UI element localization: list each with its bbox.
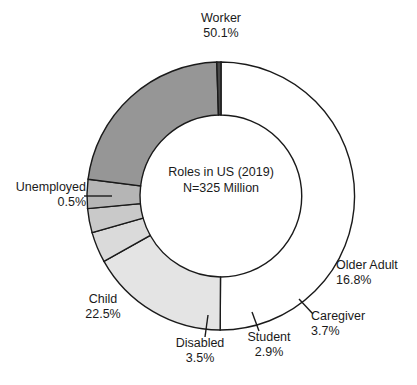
slice-label-student-value: 2.9% <box>238 345 300 360</box>
slice-label-student-category: Student <box>238 330 300 345</box>
slice-label-older-adult-value: 16.8% <box>336 273 416 288</box>
chart-center-label: Roles in US (2019) N=325 Million <box>146 164 296 197</box>
slice-label-worker: Worker 50.1% <box>181 11 261 41</box>
chart-title: Roles in US (2019) <box>146 164 296 180</box>
slice-label-disabled-value: 3.5% <box>166 351 234 366</box>
slice-label-caregiver: Caregiver 3.7% <box>311 309 397 339</box>
slice-label-worker-category: Worker <box>181 11 261 26</box>
slice-label-child: Child 22.5% <box>72 292 134 322</box>
slice-label-child-value: 22.5% <box>72 307 134 322</box>
chart-subtitle: N=325 Million <box>146 180 296 196</box>
slice-label-older-adult: Older Adult 16.8% <box>336 258 416 288</box>
slice-label-student: Student 2.9% <box>238 330 300 360</box>
slice-label-unemployed-category: Unemployed <box>4 180 86 195</box>
slice-label-disabled-category: Disabled <box>166 336 234 351</box>
slice-label-unemployed: Unemployed 0.5% <box>4 180 86 210</box>
slice-label-worker-value: 50.1% <box>181 26 261 41</box>
slice-label-caregiver-value: 3.7% <box>311 324 397 339</box>
slice-label-child-category: Child <box>72 292 134 307</box>
slice-label-unemployed-value: 0.5% <box>4 195 86 210</box>
donut-chart-figure: Roles in US (2019) N=325 Million Worker … <box>0 0 417 385</box>
slice-label-older-adult-category: Older Adult <box>336 258 416 273</box>
slice-label-disabled: Disabled 3.5% <box>166 336 234 366</box>
slice-label-caregiver-category: Caregiver <box>311 309 397 324</box>
